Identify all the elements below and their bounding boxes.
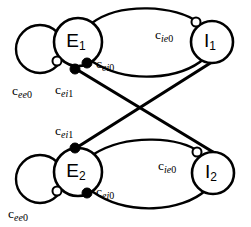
synapse-closed-ei1-bot — [70, 143, 80, 153]
synapse-closed-ei0-bot — [82, 188, 92, 198]
circuit-diagram: E1 I1 E2 I2 cee0 cei0 cei1 cie0 cei1 cee… — [0, 0, 251, 227]
circuit-canvas: E1 I1 E2 I2 cee0 cei0 cei1 cie0 cei1 cee… — [0, 0, 251, 227]
synapse-closed-ei1-top — [70, 64, 80, 74]
edge-label-cee0-bot: cee0 — [8, 206, 28, 223]
synapse-open-ee0-top — [53, 57, 62, 66]
edge-e2-to-i1 — [76, 62, 212, 148]
edge-label-cei1-bot: cei1 — [55, 123, 73, 140]
synapse-open-ie0-top — [192, 18, 201, 27]
edge-label-cee0-top: cee0 — [12, 83, 32, 100]
edge-i2-to-e2 — [94, 140, 201, 154]
edge-label-cei1-top: cei1 — [55, 82, 73, 99]
edge-label-cie0-bot: cie0 — [158, 158, 176, 175]
edge-label-cei0-bot: cei0 — [96, 184, 114, 201]
synapse-open-ee0-bot — [53, 187, 62, 196]
edge-e1-to-i1 — [92, 8, 199, 23]
edge-label-cei0-top: cei0 — [96, 56, 114, 73]
edge-label-cie0-top: cie0 — [155, 27, 173, 44]
synapse-closed-ei0-top — [82, 58, 92, 68]
synapse-open-ie0-bot — [193, 148, 202, 157]
